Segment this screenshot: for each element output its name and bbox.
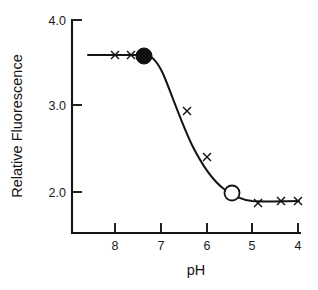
- open-circle-marker: [225, 186, 240, 201]
- y-tick-label-2: 2.0: [49, 186, 66, 200]
- relative-fluorescence-ph-plot: 4.0 3.0 2.0 8 7 6 5 4 pH Relative Fluore…: [0, 0, 318, 290]
- y-tick-label-3: 3.0: [49, 99, 66, 113]
- x-tick-label-7: 7: [158, 239, 165, 253]
- x-axis-tick-labels: 8 7 6 5 4: [112, 239, 302, 253]
- x-tick-label-4: 4: [295, 239, 302, 253]
- x-tick-label-6: 6: [204, 239, 211, 253]
- data-point-marker: [183, 107, 191, 115]
- chart-figure: 4.0 3.0 2.0 8 7 6 5 4 pH Relative Fluore…: [0, 0, 318, 290]
- y-axis-title: Relative Fluorescence: [9, 54, 25, 197]
- data-point-markers: [111, 51, 302, 207]
- x-axis-title: pH: [187, 262, 206, 278]
- data-point-marker: [203, 153, 211, 161]
- fluorescence-curve: [88, 55, 299, 201]
- x-tick-label-5: 5: [249, 239, 256, 253]
- filled-circle-marker: [136, 48, 152, 64]
- x-axis-ticks: [115, 223, 298, 233]
- y-axis-ticks: [72, 20, 82, 192]
- y-tick-label-4: 4.0: [49, 14, 66, 28]
- data-point-marker: [254, 199, 262, 207]
- y-axis-tick-labels: 4.0 3.0 2.0: [49, 14, 66, 200]
- x-tick-label-8: 8: [112, 239, 119, 253]
- data-series-group: [88, 48, 302, 207]
